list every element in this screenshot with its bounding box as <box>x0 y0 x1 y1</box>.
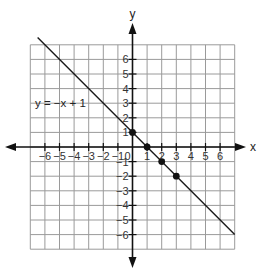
x-tick-label: 6 <box>217 150 223 162</box>
y-tick-label: −6 <box>116 229 129 241</box>
y-tick-label: −2 <box>116 170 129 182</box>
y-tick-label: 3 <box>122 97 128 109</box>
y-axis-label: y <box>130 7 136 21</box>
y-tick-label: −4 <box>116 199 129 211</box>
x-tick-label: −3 <box>82 150 95 162</box>
data-point <box>158 158 165 165</box>
x-axis-label: x <box>250 140 256 154</box>
y-tick-label: −3 <box>116 185 129 197</box>
x-tick-label: 3 <box>173 150 179 162</box>
y-axis-down-arrow-icon <box>129 257 137 268</box>
y-tick-label: 5 <box>122 68 128 80</box>
y-tick-label: −5 <box>116 214 129 226</box>
y-tick-label: 6 <box>122 53 128 65</box>
y-axis-up-arrow-icon <box>129 23 137 34</box>
x-axis-left-arrow-icon <box>5 143 16 151</box>
x-tick-label: −6 <box>39 150 52 162</box>
data-point <box>144 144 151 151</box>
x-tick-label: −5 <box>53 150 66 162</box>
data-point <box>173 173 180 180</box>
data-point <box>129 129 136 136</box>
y-tick-label: −1 <box>116 156 129 168</box>
x-tick-label: −2 <box>97 150 110 162</box>
y-tick-label: 4 <box>122 83 128 95</box>
x-tick-label: −4 <box>68 150 81 162</box>
coordinate-plane: −6−5−4−3−2−10123456−6−5−4−3−2−1123456 x … <box>0 0 263 276</box>
y-tick-label: 2 <box>122 112 128 124</box>
x-axis-right-arrow-icon <box>235 143 246 151</box>
x-tick-label: 1 <box>144 150 150 162</box>
equation-label: y = −x + 1 <box>35 97 86 109</box>
x-tick-label: 5 <box>202 150 208 162</box>
x-tick-label: 4 <box>188 150 194 162</box>
